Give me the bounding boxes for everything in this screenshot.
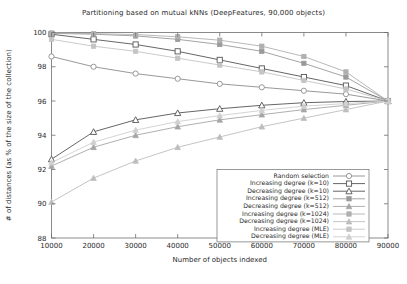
series-marker	[133, 49, 137, 53]
legend-label: Decreasing degree (MLE)	[251, 232, 329, 240]
series-marker	[260, 49, 264, 53]
series-marker	[344, 75, 348, 79]
series-marker	[175, 56, 179, 60]
x-tick-label: 90000	[377, 242, 399, 250]
series-marker	[175, 49, 180, 54]
series-marker	[218, 63, 222, 67]
legend-label: Random selection	[274, 172, 329, 179]
series-marker	[301, 88, 306, 93]
y-tick-label: 96	[38, 98, 47, 106]
x-tick-label: 50000	[209, 242, 231, 250]
y-tick-label: 98	[38, 63, 47, 71]
x-tick-label: 70000	[293, 242, 315, 250]
x-tick-label: 20000	[82, 242, 104, 250]
series-marker	[218, 42, 222, 46]
x-tick-label: 60000	[251, 242, 273, 250]
y-tick-label: 94	[38, 132, 47, 140]
x-tick-label: 10000	[40, 242, 62, 250]
series-marker	[217, 81, 222, 86]
legend-marker	[347, 227, 351, 231]
series-marker	[133, 42, 138, 47]
legend-marker	[347, 197, 351, 201]
legend-marker	[347, 212, 351, 216]
series-marker	[91, 44, 95, 48]
legend-marker	[346, 181, 351, 186]
x-axis-label: Number of objects indexed	[173, 256, 267, 264]
series-marker	[302, 78, 306, 82]
series-marker	[49, 37, 53, 41]
chart-figure: Partitioning based on mutual kNNs (DeepF…	[0, 0, 407, 284]
series-marker	[260, 44, 264, 48]
series-marker	[133, 71, 138, 76]
series-marker	[302, 61, 306, 65]
legend-marker	[346, 173, 351, 178]
series-marker	[217, 57, 222, 62]
series-marker	[259, 85, 264, 90]
x-tick-label: 30000	[124, 242, 146, 250]
series-marker	[91, 175, 97, 180]
x-tick-label: 40000	[167, 242, 189, 250]
series-marker	[218, 38, 222, 42]
y-tick-label: 90	[38, 200, 47, 208]
y-tick-label: 100	[33, 29, 46, 37]
series-marker	[91, 64, 96, 69]
chart-plot-area: 8890929496981001000020000300004000050000…	[0, 0, 407, 284]
chart-legend: Random selectionIncreasing degree (k=10)…	[217, 170, 369, 242]
series-marker	[260, 70, 264, 74]
series-marker	[175, 76, 180, 81]
y-tick-label: 92	[38, 166, 47, 174]
series-marker	[302, 54, 306, 58]
y-axis-label: # of distances (as % of the size of the …	[5, 49, 13, 221]
series-marker	[343, 92, 348, 97]
series-marker	[344, 70, 348, 74]
series-marker	[49, 54, 54, 59]
x-tick-label: 80000	[335, 242, 357, 250]
series-marker	[91, 37, 96, 42]
series-marker	[344, 87, 348, 91]
series-line	[52, 39, 389, 101]
